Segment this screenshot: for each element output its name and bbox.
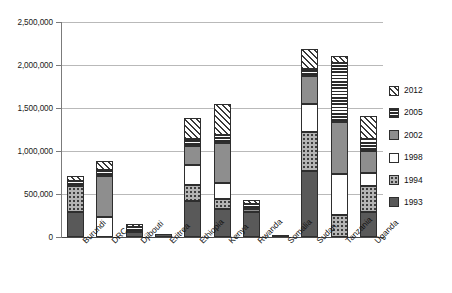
bar-group[interactable]	[301, 49, 318, 237]
bar-segment[interactable]	[67, 212, 84, 237]
bar-segment[interactable]	[96, 161, 113, 170]
bar-segment[interactable]	[184, 185, 201, 200]
bar-group[interactable]	[331, 56, 348, 237]
x-axis-label: Djibouti	[139, 239, 145, 245]
legend-swatch-icon	[389, 130, 399, 140]
legend-label: 2002	[404, 131, 423, 140]
legend-item[interactable]: 1998	[389, 153, 449, 162]
bar-segment[interactable]	[301, 69, 318, 76]
y-axis-tick-label: 1,500,000	[1, 104, 53, 113]
legend-item[interactable]: 2002	[389, 131, 449, 140]
bar-segment[interactable]	[360, 173, 377, 186]
legend-label: 2005	[404, 108, 423, 117]
x-axis-label: DRC	[110, 239, 116, 245]
legend-swatch-icon	[389, 86, 399, 96]
bar-segment[interactable]	[331, 63, 348, 122]
x-axis-label: Somalia	[286, 239, 292, 245]
bar-segment[interactable]	[96, 176, 113, 217]
y-axis-tick-mark	[56, 237, 62, 238]
y-axis-tick-label: 0	[1, 233, 53, 242]
bar-segment[interactable]	[214, 199, 231, 208]
legend-swatch-icon	[389, 197, 399, 207]
legend-swatch-icon	[389, 153, 399, 163]
chart-legend: 201220052002199819941993	[389, 86, 449, 220]
bar-group[interactable]	[67, 176, 84, 237]
bar-segment[interactable]	[214, 104, 231, 135]
legend-swatch-icon	[389, 175, 399, 185]
bar-segment[interactable]	[331, 122, 348, 174]
bar-segment[interactable]	[214, 135, 231, 144]
bar-segment[interactable]	[67, 186, 84, 212]
x-axis-label: Tanzania	[344, 239, 350, 245]
bar-segment[interactable]	[331, 174, 348, 215]
bar-group[interactable]	[214, 104, 231, 237]
legend-item[interactable]: 2005	[389, 108, 449, 117]
stacked-bar-chart: 0500,0001,000,0001,500,0002,000,0002,500…	[0, 0, 452, 293]
bars-layer	[61, 22, 383, 237]
x-axis-category-labels: BurundiDRCDjiboutiEritreaEthiopiaKenyaRw…	[61, 239, 383, 293]
y-axis-tick-label: 500,000	[1, 190, 53, 199]
bar-segment[interactable]	[360, 116, 377, 139]
x-axis-label: Ethiopia	[198, 239, 204, 245]
x-axis-label: Rwanda	[256, 239, 262, 245]
legend-swatch-icon	[389, 108, 399, 118]
bar-segment[interactable]	[184, 165, 201, 185]
y-axis-tick-label: 1,000,000	[1, 147, 53, 156]
bar-segment[interactable]	[184, 118, 201, 140]
y-axis-tick-label: 2,500,000	[1, 18, 53, 27]
bar-segment[interactable]	[360, 186, 377, 212]
legend-label: 1994	[404, 176, 423, 185]
legend-item[interactable]: 1993	[389, 198, 449, 207]
legend-item[interactable]: 2012	[389, 86, 449, 95]
bar-segment[interactable]	[301, 76, 318, 104]
bar-segment[interactable]	[214, 143, 231, 183]
bar-segment[interactable]	[301, 132, 318, 171]
bar-segment[interactable]	[331, 56, 348, 63]
bar-segment[interactable]	[301, 49, 318, 70]
bar-segment[interactable]	[214, 183, 231, 199]
legend-label: 1993	[404, 198, 423, 207]
x-axis-label: Burundi	[81, 239, 87, 245]
legend-item[interactable]: 1994	[389, 176, 449, 185]
bar-group[interactable]	[184, 118, 201, 237]
y-axis-tick-label: 2,000,000	[1, 61, 53, 70]
bar-segment[interactable]	[301, 104, 318, 132]
legend-label: 2012	[404, 86, 423, 95]
bar-segment[interactable]	[96, 170, 113, 177]
x-axis-label: Uganda	[373, 239, 379, 245]
bar-segment[interactable]	[360, 139, 377, 150]
legend-label: 1998	[404, 153, 423, 162]
x-axis-label: Kenya	[227, 239, 233, 245]
bar-segment[interactable]	[360, 151, 377, 173]
x-axis-label: Sudan	[315, 239, 321, 245]
bar-segment[interactable]	[184, 146, 201, 165]
x-axis-label: Eritrea	[168, 239, 174, 245]
